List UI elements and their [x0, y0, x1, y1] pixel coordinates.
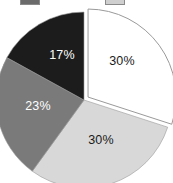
pie-chart-svg — [0, 0, 173, 183]
pie-slices — [0, 9, 173, 183]
pie-chart-screenshot: 30%30%23%17% — [0, 0, 173, 183]
pie-chart: 30%30%23%17% — [0, 0, 173, 183]
